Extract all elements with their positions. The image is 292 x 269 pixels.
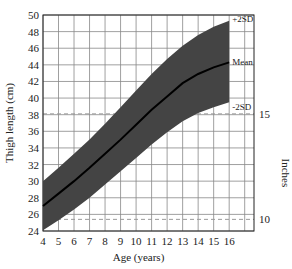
growth-chart: 4567891011121314151624262830323436384042… bbox=[0, 0, 292, 269]
svg-text:10: 10 bbox=[259, 213, 271, 225]
svg-text:16: 16 bbox=[224, 235, 236, 247]
svg-text:12: 12 bbox=[162, 235, 173, 247]
svg-text:34: 34 bbox=[28, 142, 40, 154]
svg-text:Thigh length (cm): Thigh length (cm) bbox=[3, 83, 16, 163]
svg-text:15: 15 bbox=[259, 108, 271, 120]
svg-text:15: 15 bbox=[208, 235, 220, 247]
svg-text:44: 44 bbox=[28, 59, 40, 71]
svg-text:14: 14 bbox=[193, 235, 205, 247]
svg-text:8: 8 bbox=[102, 235, 108, 247]
svg-text:32: 32 bbox=[28, 159, 39, 171]
svg-text:28: 28 bbox=[28, 192, 40, 204]
svg-text:10: 10 bbox=[131, 235, 143, 247]
svg-text:42: 42 bbox=[28, 75, 39, 87]
svg-text:Mean: Mean bbox=[232, 57, 253, 67]
svg-text:Inches: Inches bbox=[280, 158, 292, 187]
svg-text:26: 26 bbox=[28, 208, 40, 220]
svg-text:6: 6 bbox=[71, 235, 77, 247]
svg-text:5: 5 bbox=[56, 235, 62, 247]
svg-text:7: 7 bbox=[87, 235, 93, 247]
svg-text:30: 30 bbox=[28, 175, 40, 187]
svg-text:+2SD: +2SD bbox=[232, 14, 254, 24]
svg-text:50: 50 bbox=[28, 9, 40, 21]
svg-text:4: 4 bbox=[40, 235, 46, 247]
svg-text:40: 40 bbox=[28, 92, 40, 104]
svg-text:13: 13 bbox=[177, 235, 189, 247]
svg-text:24: 24 bbox=[28, 225, 40, 237]
svg-text:9: 9 bbox=[118, 235, 124, 247]
svg-text:36: 36 bbox=[28, 125, 40, 137]
svg-text:11: 11 bbox=[146, 235, 157, 247]
svg-text:Age (years): Age (years) bbox=[113, 251, 165, 264]
svg-text:46: 46 bbox=[28, 42, 40, 54]
svg-text:38: 38 bbox=[28, 109, 40, 121]
svg-text:48: 48 bbox=[28, 26, 40, 38]
svg-text:-2SD: -2SD bbox=[232, 102, 252, 112]
